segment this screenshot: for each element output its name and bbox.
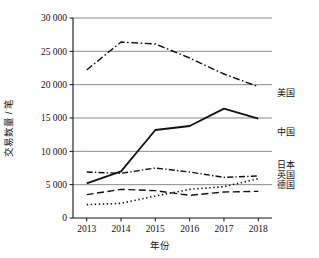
series-line-德国 xyxy=(87,189,259,195)
series-line-美国 xyxy=(87,42,259,87)
y-axis-tick-labels: 05 00010 00015 00020 00025 00030 000 xyxy=(41,13,67,223)
y-axis-title: 交易数量 / 笔 xyxy=(3,99,14,157)
series-line-中国 xyxy=(87,109,259,184)
x-tick-label: 2017 xyxy=(214,224,233,234)
series-line-日本 xyxy=(87,168,259,177)
series-label-美国: 美国 xyxy=(277,87,295,98)
y-tick-label: 30 000 xyxy=(41,13,67,23)
x-tick-label: 2015 xyxy=(146,224,165,234)
series-label-德国: 德国 xyxy=(277,179,295,190)
y-tick-label: 10 000 xyxy=(41,147,67,157)
x-tick-label: 2013 xyxy=(77,224,96,234)
x-axis-title: 年份 xyxy=(150,240,170,251)
series-label-日本: 日本 xyxy=(277,159,295,170)
series-line-英国 xyxy=(87,179,259,205)
chart-container: 05 00010 00015 00020 00025 00030 000 201… xyxy=(0,0,319,258)
y-tick-label: 20 000 xyxy=(41,80,67,90)
x-tick-label: 2016 xyxy=(180,224,199,234)
gridlines xyxy=(73,18,272,185)
y-tick-label: 15 000 xyxy=(41,113,67,123)
x-tick-label: 2018 xyxy=(249,224,268,234)
line-chart: 05 00010 00015 00020 00025 00030 000 201… xyxy=(0,0,319,258)
series-label-英国: 英国 xyxy=(277,169,295,180)
x-axis-tick-labels: 201320142015201620172018 xyxy=(77,224,268,234)
y-tick-label: 5 000 xyxy=(46,180,68,190)
x-tick-label: 2014 xyxy=(112,224,131,234)
series-lines xyxy=(87,42,259,205)
series-labels: 美国中国日本英国德国 xyxy=(277,87,295,190)
y-tick-label: 25 000 xyxy=(41,47,67,57)
series-label-中国: 中国 xyxy=(277,126,295,137)
y-tick-label: 0 xyxy=(62,213,67,223)
